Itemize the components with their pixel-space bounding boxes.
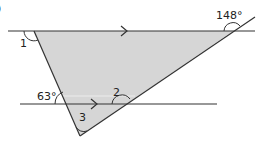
angle-63-label: 63°: [37, 90, 57, 103]
geometry-diagram: ) 1 148° 63° 2 3: [0, 0, 270, 148]
angle-1-label: 1: [20, 37, 27, 50]
shaded-triangle: [34, 31, 233, 136]
angle-2-label: 2: [113, 86, 120, 99]
question-marker: ): [0, 2, 1, 15]
angle-3-label: 3: [79, 111, 86, 124]
angle-148-arc: [224, 23, 240, 31]
angle-148-label: 148°: [216, 9, 243, 22]
